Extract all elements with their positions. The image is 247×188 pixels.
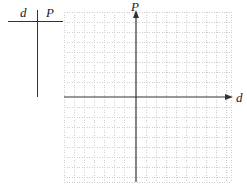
grid-svg <box>0 0 247 188</box>
x-axis-label: d <box>236 91 243 104</box>
y-axis-label: P <box>131 0 139 13</box>
